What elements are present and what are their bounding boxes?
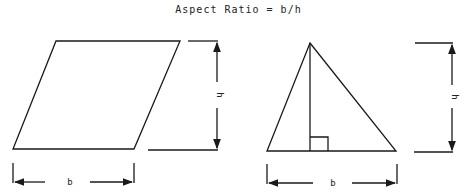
triangle-base-label: b: [330, 178, 335, 188]
parallelogram-base-dimension: b: [13, 163, 134, 187]
parallelogram-figure: h b: [13, 41, 225, 187]
triangle-shape: [267, 43, 396, 151]
right-angle-marker: [310, 137, 328, 151]
triangle-height-label: h: [450, 94, 460, 99]
parallelogram-shape: [13, 41, 180, 149]
triangle-height-dimension: h: [414, 43, 460, 152]
parallelogram-height-dimension: h: [148, 41, 225, 150]
triangle-figure: h b: [267, 43, 460, 188]
aspect-ratio-diagram: h b h b: [0, 0, 467, 196]
parallelogram-base-label: b: [67, 177, 72, 187]
triangle-base-dimension: b: [267, 164, 397, 188]
parallelogram-height-label: h: [215, 92, 225, 97]
